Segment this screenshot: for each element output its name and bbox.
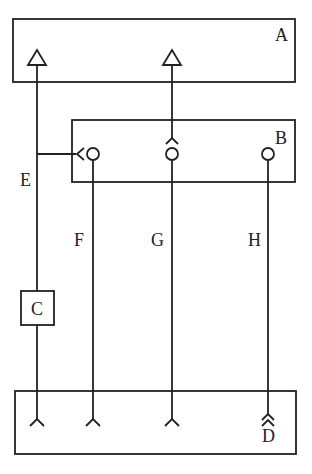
connector-chevron-icon	[77, 148, 84, 160]
block-a	[13, 19, 295, 82]
terminal-circle-icon	[87, 148, 99, 160]
triangle-terminal-icon	[28, 50, 46, 65]
wire-e-label: E	[20, 170, 31, 190]
terminal-circle-icon	[262, 148, 274, 160]
triangle-terminal-icon	[163, 50, 181, 65]
block-d-label: D	[262, 426, 275, 446]
block-c-label: C	[31, 299, 43, 319]
wire-f-label: F	[74, 230, 84, 250]
connector-chevron-icon	[166, 138, 178, 144]
wire-h-label: H	[248, 230, 261, 250]
block-d	[15, 391, 296, 454]
terminal-circle-icon	[166, 148, 178, 160]
block-b	[72, 120, 295, 182]
block-a-label: A	[275, 25, 288, 45]
wire-g-label: G	[151, 230, 164, 250]
connector-chevron-icon	[165, 419, 179, 426]
connector-chevron-icon	[86, 419, 100, 426]
block-b-label: B	[275, 128, 287, 148]
schematic-diagram: A B D E C F G H	[0, 0, 312, 474]
connector-chevron-icon	[30, 419, 44, 426]
